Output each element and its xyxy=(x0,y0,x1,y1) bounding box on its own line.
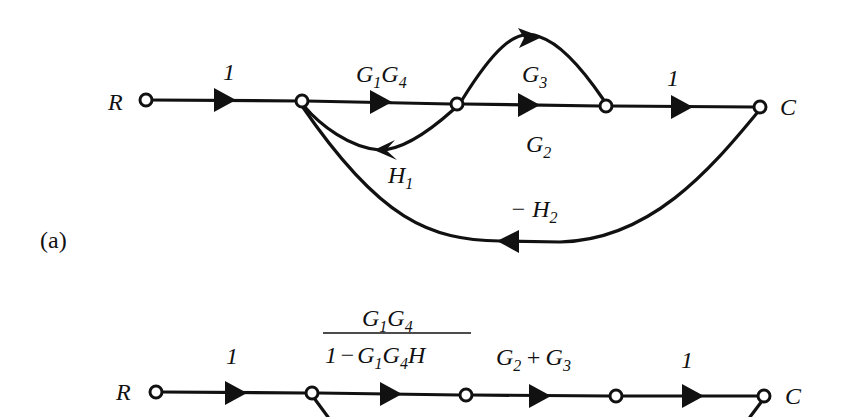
figure-tag: (a) xyxy=(40,227,67,253)
node-r xyxy=(140,94,152,106)
edge-h2-arc xyxy=(302,106,757,242)
fraction-numerator: G1G4 xyxy=(362,305,413,335)
arrow-icon xyxy=(518,93,540,117)
gain-label-h2: −H2 xyxy=(510,196,558,226)
node-c xyxy=(758,390,770,402)
node-1 xyxy=(306,387,318,399)
node-1 xyxy=(296,95,308,107)
node-3 xyxy=(600,100,612,112)
figure-b: R C 1 G1G4 1−G1G4H G2+G3 1 xyxy=(115,305,802,417)
edge-feedback-stub xyxy=(314,398,328,417)
output-label: C xyxy=(780,94,797,120)
gain-label-h1: H1 xyxy=(387,162,413,192)
gain-label-sum: G2+G3 xyxy=(496,344,571,374)
gain-label-1: 1 xyxy=(226,343,238,369)
arrow-icon xyxy=(225,381,247,405)
arrow-icon xyxy=(529,384,551,408)
arrow-icon xyxy=(497,230,519,253)
fraction-denominator: 1−G1G4H xyxy=(325,342,427,372)
gain-label-g3: G3 xyxy=(522,61,547,91)
arrow-icon xyxy=(370,90,392,114)
gain-label-last: 1 xyxy=(667,65,679,91)
output-label: C xyxy=(785,383,802,409)
arrow-icon xyxy=(380,382,402,406)
node-2 xyxy=(460,389,472,401)
edge-h1-arc xyxy=(304,106,453,150)
input-label: R xyxy=(115,379,131,405)
node-r xyxy=(150,386,162,398)
gain-label-1: 1 xyxy=(223,59,235,85)
arrow-icon xyxy=(518,28,542,48)
gain-label-g2: G2 xyxy=(526,131,551,161)
input-label: R xyxy=(107,89,123,115)
arrow-icon xyxy=(682,384,704,408)
node-3 xyxy=(610,390,622,402)
node-c xyxy=(754,101,766,113)
arrow-icon xyxy=(671,95,693,119)
gain-label-last: 1 xyxy=(681,347,693,373)
gain-label-g1g4: G1G4 xyxy=(356,61,407,91)
node-2 xyxy=(451,98,463,110)
arrow-icon xyxy=(374,140,397,160)
figure-a: R C 1 G1G4 G3 G2 1 H1 −H2 (a) xyxy=(40,28,797,253)
arrow-icon xyxy=(214,88,236,112)
edge-feedback-stub xyxy=(750,401,762,417)
signal-flow-diagram: R C 1 G1G4 G3 G2 1 H1 −H2 (a) xyxy=(0,0,849,417)
